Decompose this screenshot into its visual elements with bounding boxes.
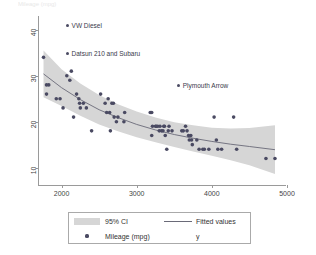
legend-entry-fitted: Fitted values [160, 213, 250, 229]
plot-svg [39, 16, 286, 185]
scatter-point [47, 83, 51, 87]
annotation-dot-icon [66, 52, 69, 55]
scatter-point [166, 129, 170, 133]
scatter-point [122, 120, 126, 124]
scatter-point [184, 124, 188, 128]
scatter-point [75, 92, 79, 96]
scatter-point [54, 97, 58, 101]
scatter-point [99, 92, 103, 96]
scatter-point [90, 129, 94, 133]
plot-annotation: Datsun 210 and Subaru [66, 49, 140, 57]
x-tick-mark [62, 185, 63, 188]
scatter-point [273, 157, 277, 161]
scatter-point [123, 111, 127, 115]
legend-label-mileage: Mileage (mpg) [105, 233, 150, 240]
legend-entry-ci: 95% CI [69, 213, 160, 229]
scatter-point [58, 97, 62, 101]
scatter-point [85, 106, 89, 110]
scatter-point [232, 115, 236, 119]
y-tick-label: 20 [31, 120, 38, 128]
scatter-point [72, 115, 76, 119]
scatter-point [161, 129, 165, 133]
legend-label-fitted: Fitted values [196, 218, 236, 225]
scatter-point [108, 111, 112, 115]
plot-area [39, 16, 286, 185]
annotation-label: Plymouth Arrow [183, 82, 229, 89]
scatter-point [116, 115, 120, 119]
scatter-point [77, 97, 81, 101]
annotation-label: Datsun 210 and Subaru [72, 50, 141, 57]
scatter-point [235, 147, 239, 151]
scatter-point [191, 143, 195, 147]
x-tick-label: 4000 [204, 190, 220, 197]
annotation-dot-icon [177, 84, 180, 87]
scatter-point [215, 138, 219, 142]
x-tick-mark [137, 185, 138, 188]
scatter-point [163, 124, 167, 128]
scatter-point [106, 97, 110, 101]
x-tick-label: 2000 [54, 190, 70, 197]
scatter-point [109, 129, 113, 133]
x-tick-label: 3000 [129, 190, 145, 197]
ci-band-swatch [69, 218, 105, 225]
scatter-point [112, 102, 116, 106]
scatter-point [165, 147, 169, 151]
scatter-point [167, 124, 171, 128]
legend-entry-y: y [160, 228, 250, 244]
y-blank-swatch [160, 236, 196, 237]
scatter-point [61, 106, 65, 110]
x-tick-mark [212, 185, 213, 188]
scatter-point [185, 129, 189, 133]
annotation-dot-icon [66, 24, 69, 27]
scatter-point [115, 120, 119, 124]
legend-label-y: y [196, 233, 200, 240]
chart-figure: Mileage (mpg) 10203040 2000300040005000 … [0, 0, 316, 255]
y-tick-label: 40 [31, 28, 38, 36]
scatter-point [68, 79, 72, 83]
scatter-point [203, 147, 207, 151]
scatter-point [70, 69, 74, 73]
plot-annotation: Plymouth Arrow [177, 81, 228, 89]
legend-row: 95% CI Fitted values [69, 213, 250, 229]
scatter-point [103, 102, 107, 106]
scatter-point [207, 147, 211, 151]
scatter-point [181, 129, 185, 133]
chart-legend: 95% CI Fitted values Mileage (mpg) y [68, 212, 251, 244]
x-tick-label: 5000 [279, 190, 295, 197]
figure-top-title: Mileage (mpg) [18, 0, 138, 9]
x-tick-mark [287, 185, 288, 188]
scatter-point [220, 147, 224, 151]
scatter-point [190, 138, 194, 142]
fitted-line-swatch [160, 221, 196, 222]
ci-band-group [44, 50, 275, 174]
scatter-point [150, 111, 154, 115]
scatter-point [264, 157, 268, 161]
scatter-point [42, 56, 46, 60]
scatter-point [112, 115, 116, 119]
scatter-point [158, 124, 162, 128]
scatter-point [163, 134, 167, 138]
legend-row: Mileage (mpg) y [69, 228, 250, 244]
scatter-point [212, 115, 216, 119]
y-tick-label: 10 [31, 166, 38, 174]
scatter-point [45, 92, 49, 96]
legend-entry-mileage: Mileage (mpg) [69, 228, 160, 244]
scatter-point [78, 102, 82, 106]
legend-label-ci: 95% CI [105, 218, 128, 225]
scatter-point [216, 147, 220, 151]
scatter-point [197, 147, 201, 151]
annotation-label: VW Diesel [72, 22, 102, 29]
plot-frame: 10203040 2000300040005000 VW DieselDatsu… [38, 16, 286, 186]
scatter-point [82, 102, 86, 106]
scatter-point [79, 106, 83, 110]
mileage-dot-swatch [69, 234, 105, 237]
scatter-point [195, 138, 199, 142]
ci-band-area [44, 50, 275, 174]
scatter-point [150, 134, 154, 138]
scatter-point [65, 74, 69, 78]
scatter-point [170, 129, 174, 133]
scatter-point [189, 134, 193, 138]
plot-annotation: VW Diesel [66, 21, 102, 29]
y-tick-label: 30 [31, 74, 38, 82]
